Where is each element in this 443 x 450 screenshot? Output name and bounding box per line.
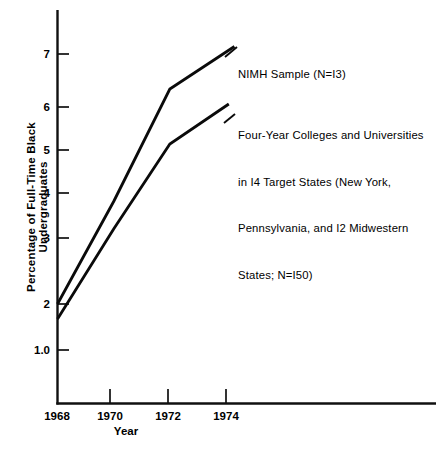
annotation-four-year-line-2: in I4 Target States (New York, <box>238 175 424 191</box>
x-axis-title: Year <box>96 425 156 437</box>
leader-line-four-year <box>224 114 235 123</box>
x-tick-label-1970: 1970 <box>97 410 123 422</box>
annotation-four-year-line-1: Four-Year Colleges and Universities <box>238 128 424 144</box>
annotation-four-year-line-3: Pennsylvania, and I2 Midwestern <box>238 221 424 237</box>
annotation-four-year-line-4: States; N=I50) <box>238 268 424 284</box>
x-axis-ticks <box>110 389 226 403</box>
x-axis-tick-labels: 1968 1970 1972 1974 <box>44 410 239 422</box>
annotation-four-year-colleges: Four-Year Colleges and Universities in I… <box>238 97 424 314</box>
y-tick-label-1: 1.0 <box>34 344 50 356</box>
y-axis-title: Percentage of Full-Time Black Undergradu… <box>25 77 49 337</box>
series-line-nimh-sample <box>58 47 235 305</box>
x-tick-label-1974: 1974 <box>213 410 239 422</box>
x-tick-label-1972: 1972 <box>155 410 181 422</box>
x-tick-label-1968: 1968 <box>44 410 70 422</box>
y-tick-label-7: 7 <box>44 48 50 60</box>
series-line-four-year-colleges <box>58 104 229 319</box>
chart-figure: 7 6 5 4 3 2 1.0 1968 1970 1972 1974 <box>0 0 443 450</box>
annotation-nimh-line-1: NIMH Sample (N=I3) <box>238 67 346 83</box>
